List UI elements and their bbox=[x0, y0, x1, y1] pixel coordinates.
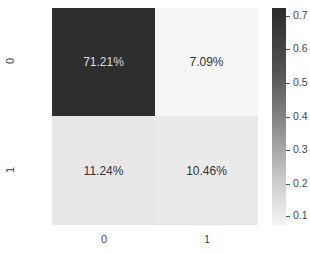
cell-annotation: 10.46% bbox=[186, 164, 227, 178]
colorbar-tick: 0.4 bbox=[286, 110, 308, 122]
x-tick-label-0: 0 bbox=[94, 233, 114, 245]
colorbar-tick: 0.7 bbox=[286, 9, 308, 21]
cell-annotation: 11.24% bbox=[84, 164, 124, 178]
cell-1-0: 11.24% bbox=[52, 116, 155, 225]
cell-0-1: 7.09% bbox=[155, 8, 258, 116]
x-tick-label-1: 1 bbox=[197, 233, 217, 245]
colorbar-tick: 0.1 bbox=[286, 209, 308, 221]
y-tick-label-0: 0 bbox=[4, 51, 16, 71]
heatmap-plot: 71.21% 7.09% 11.24% 10.46% bbox=[52, 8, 258, 225]
cell-0-0: 71.21% bbox=[52, 8, 155, 116]
colorbar-tick: 0.3 bbox=[286, 143, 308, 155]
colorbar-tick: 0.6 bbox=[286, 42, 308, 54]
y-tick-label-1: 1 bbox=[4, 160, 16, 180]
cell-1-1: 10.46% bbox=[155, 116, 258, 225]
cell-annotation: 71.21% bbox=[83, 55, 124, 69]
colorbar bbox=[272, 8, 286, 225]
colorbar-tick: 0.2 bbox=[286, 177, 308, 189]
colorbar-tick: 0.5 bbox=[286, 76, 308, 88]
cell-annotation: 7.09% bbox=[189, 55, 223, 69]
